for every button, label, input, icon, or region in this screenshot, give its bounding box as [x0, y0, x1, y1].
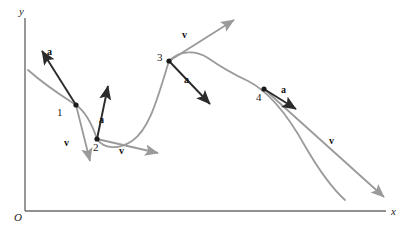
trajectory-point-3: [166, 58, 171, 63]
acceleration-label-1: a: [47, 47, 52, 57]
velocity-label-1: v: [64, 138, 69, 148]
velocity-vector-1: [76, 105, 90, 161]
acceleration-label-2: a: [99, 115, 104, 125]
velocity-vector-4: [264, 89, 384, 197]
point-label-2: 2: [93, 142, 99, 153]
acceleration-label-4: a: [281, 85, 286, 95]
y-axis-label: y: [19, 6, 24, 17]
point-label-1: 1: [57, 107, 63, 118]
acceleration-vector-1: [42, 51, 76, 105]
acceleration-vector-4: [264, 89, 296, 109]
velocity-label-3: v: [182, 30, 187, 40]
x-axis-label: x: [391, 206, 396, 217]
point-label-3: 3: [157, 52, 163, 63]
point-label-4: 4: [256, 92, 262, 103]
acceleration-vector-2: [97, 86, 108, 139]
acceleration-label-3: a: [184, 75, 189, 85]
trajectory-points-group: [73, 58, 266, 141]
physics-trajectory-figure: y x O vvvvaaaa1234: [0, 0, 413, 231]
trajectory-point-4: [261, 86, 266, 91]
velocity-label-2: v: [119, 146, 124, 156]
acceleration-vector-3: [169, 61, 210, 104]
velocity-vectors-group: [76, 20, 384, 197]
trajectory-point-1: [73, 102, 78, 107]
velocity-label-4: v: [329, 136, 334, 146]
origin-label: O: [14, 212, 22, 223]
